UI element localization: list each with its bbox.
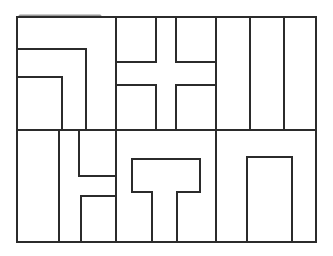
line-puzzle-diagram (0, 0, 333, 256)
